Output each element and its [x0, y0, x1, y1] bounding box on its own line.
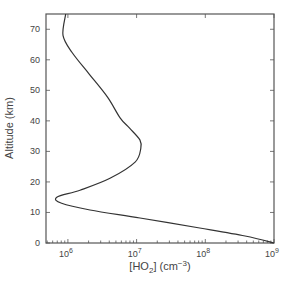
y-tick-label: 60 — [30, 55, 40, 65]
y-tick-label: 0 — [35, 238, 40, 248]
x-tick-label: 109 — [265, 247, 279, 259]
ho2-profile-line — [55, 14, 274, 243]
y-tick-label: 20 — [30, 177, 40, 187]
y-tick-label: 30 — [30, 146, 40, 156]
x-tick-label: 107 — [128, 247, 142, 259]
y-axis-ticks: 010203040506070 — [30, 24, 274, 248]
x-axis-label: [HO2] (cm−3) — [129, 259, 190, 275]
y-tick-label: 40 — [30, 116, 40, 126]
x-tick-label: 108 — [196, 247, 210, 259]
y-axis-label: Altitude (km) — [3, 97, 15, 159]
hox-altitude-chart: 106107108109 010203040506070 [HO2] (cm−3… — [0, 0, 292, 287]
y-tick-label: 70 — [30, 24, 40, 34]
y-tick-label: 10 — [30, 207, 40, 217]
y-tick-label: 50 — [30, 85, 40, 95]
x-tick-label: 106 — [59, 247, 73, 259]
